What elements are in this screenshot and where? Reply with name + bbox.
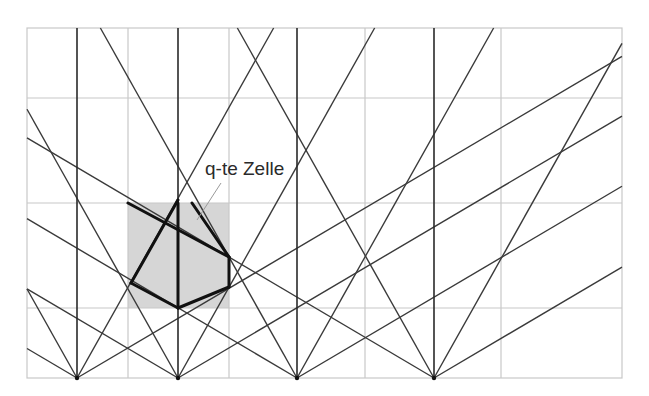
apex-dot: [432, 376, 436, 380]
cell-diagram: [0, 0, 649, 396]
apex-dot: [295, 376, 299, 380]
apex-dot: [176, 376, 180, 380]
apex-dot: [75, 376, 79, 380]
cell-label: q-te Zelle: [205, 158, 284, 180]
ray-line: [27, 289, 77, 378]
ray-line: [434, 267, 622, 378]
ray-line: [178, 116, 622, 378]
ray-line: [297, 186, 622, 378]
